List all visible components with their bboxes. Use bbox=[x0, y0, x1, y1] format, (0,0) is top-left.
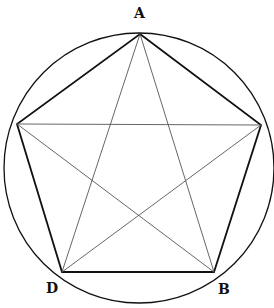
diagonal-right-left bbox=[17, 124, 261, 125]
diagonal-B-left bbox=[17, 124, 214, 272]
diagonals bbox=[17, 34, 261, 272]
circumscribed-circle bbox=[4, 33, 274, 303]
pentagon-diagram bbox=[0, 0, 274, 308]
vertex-label-b: B bbox=[218, 282, 230, 296]
diagonal-right-D bbox=[62, 125, 261, 272]
pentagon bbox=[17, 34, 261, 272]
diagonal-A-D bbox=[62, 34, 140, 272]
diagonal-A-B bbox=[140, 34, 214, 272]
vertex-label-d: D bbox=[46, 281, 58, 295]
vertex-label-a: A bbox=[134, 6, 145, 20]
